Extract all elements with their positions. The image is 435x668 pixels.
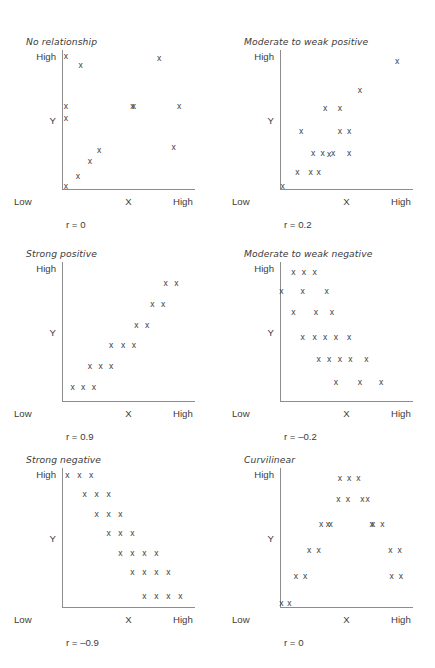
data-point: x [334,377,338,386]
y-axis-high-label: High [14,51,56,62]
x-axis-label: X [109,614,149,625]
data-point: x [312,333,316,342]
panel-strong-negative: Strong negative HighYLowXHighr = –0.9xxx… [12,452,229,665]
data-point: x [154,592,158,601]
panel-moderate-weak-negative: Moderate to weak negative HighYLowXHighr… [230,246,435,459]
data-point: x [118,510,122,519]
y-axis-high-label: High [232,469,274,480]
y-axis-high-label: High [232,263,274,274]
data-point: x [300,333,304,342]
y-axis-label: Y [14,327,56,338]
data-point: x [390,572,394,581]
correlation-annotation: r = –0.9 [66,637,99,648]
data-point: x [154,548,158,557]
data-point: x [106,529,110,538]
data-point: x [106,510,110,519]
plot-area: HighYLowXHighr = 0.9xxxxxxxxxxxxxxx [12,246,229,459]
data-point: x [166,568,170,577]
plot-area: HighYLowXHighr = 0.2xxxxxxxxxxxxxxxx [230,34,435,247]
plot-area: HighYLowXHighr = –0.2xxxxxxxxxxxxxxxxxxx… [230,246,435,459]
data-point: x [64,182,68,191]
data-point: x [364,355,368,364]
data-point: x [64,51,68,60]
data-point: x [88,362,92,371]
data-point: x [388,546,392,555]
x-axis-line [280,189,413,190]
data-point: x [338,126,342,135]
data-point: x [314,308,318,317]
data-point: x [291,267,295,276]
y-axis-line [280,50,281,189]
correlation-annotation: r = 0.9 [66,431,93,442]
x-axis-line [280,607,413,608]
x-axis-line [62,189,195,190]
data-point: x [174,279,178,288]
data-point: x [65,471,69,480]
data-point: x [76,172,80,181]
data-point: x [358,86,362,95]
data-point: x [279,287,283,296]
y-axis-line [62,468,63,607]
data-point: x [279,599,283,608]
data-point: x [64,114,68,123]
data-point: x [331,149,335,158]
x-axis-label: X [327,408,367,419]
data-point: x [324,287,328,296]
data-point: x [316,168,320,177]
data-point: x [347,473,351,482]
data-point: x [295,168,299,177]
data-point: x [327,355,331,364]
data-point: x [132,101,136,110]
y-axis-label: Y [14,115,56,126]
data-point: x [348,355,352,364]
data-point: x [94,510,98,519]
data-point: x [78,61,82,70]
y-axis-label: Y [232,115,274,126]
y-axis-line [280,468,281,607]
data-point: x [150,299,154,308]
x-axis-high-label: High [173,196,213,207]
plot-area: HighYLowXHighr = –0.9xxxxxxxxxxxxxxxxxxx… [12,452,229,665]
y-axis-label: Y [232,533,274,544]
x-axis-high-label: High [391,614,431,625]
x-axis-label: X [327,196,367,207]
data-point: x [371,519,375,528]
panel-no-relationship: No relationship HighYLowXHighr = 0xxxxxx… [12,34,229,247]
x-axis-label: X [109,196,149,207]
data-point: x [360,494,364,503]
data-point: x [132,341,136,350]
data-point: x [172,143,176,152]
data-point: x [336,494,340,503]
data-point: x [287,599,291,608]
x-axis-high-label: High [173,614,213,625]
data-point: x [109,341,113,350]
data-point: x [311,149,315,158]
data-point: x [142,568,146,577]
y-axis-label: Y [14,533,56,544]
data-point: x [300,287,304,296]
y-axis-label: Y [232,327,274,338]
data-point: x [380,519,384,528]
x-axis-line [62,401,195,402]
data-point: x [358,377,362,386]
correlation-annotation: r = –0.2 [284,431,317,442]
data-point: x [291,308,295,317]
data-point: x [118,529,122,538]
plot-area: HighYLowXHighr = 0xxxxxxxxxxxxx [12,34,229,247]
data-point: x [98,362,102,371]
data-point: x [319,519,323,528]
data-point: x [281,182,285,191]
data-point: x [347,333,351,342]
x-axis-high-label: High [173,408,213,419]
data-point: x [130,568,134,577]
y-axis-high-label: High [232,51,274,62]
data-point: x [356,473,360,482]
data-point: x [142,592,146,601]
y-axis-high-label: High [14,263,56,274]
data-point: x [302,267,306,276]
data-point: x [303,572,307,581]
x-axis-low-label: Low [14,408,56,419]
data-point: x [323,104,327,113]
data-point: x [145,320,149,329]
data-point: x [398,546,402,555]
